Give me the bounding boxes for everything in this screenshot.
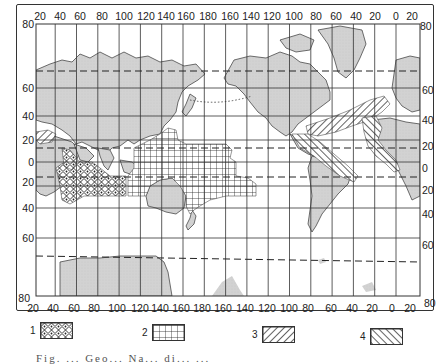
svg-text:60: 60	[68, 302, 80, 314]
legend-item-2: 2	[142, 324, 185, 341]
svg-text:60: 60	[22, 232, 34, 244]
svg-text:40: 40	[350, 10, 362, 22]
right-latitude-labels: 80 60 40 20 0 20 40 60 80	[420, 20, 436, 309]
svg-text:140: 140	[236, 302, 254, 314]
svg-text:60: 60	[22, 82, 34, 94]
svg-text:0: 0	[389, 302, 395, 314]
svg-text:160: 160	[214, 302, 232, 314]
svg-text:80: 80	[424, 297, 436, 309]
legend-item-4: 4	[360, 328, 403, 345]
legend-number: 1	[30, 325, 36, 336]
legend-number: 3	[252, 329, 258, 340]
svg-text:0: 0	[28, 156, 34, 168]
svg-text:60: 60	[325, 302, 337, 314]
cross-hatch-swatch-icon	[40, 322, 73, 339]
svg-text:80: 80	[88, 302, 100, 314]
svg-text:40: 40	[346, 302, 358, 314]
svg-text:100: 100	[280, 302, 298, 314]
svg-text:120: 120	[131, 302, 149, 314]
top-longitude-labels: 20 40 60 80 100 120 140 160 180 160 140 …	[34, 10, 418, 22]
left-latitude-labels: 80 60 40 20 0 20 40 60 80	[18, 18, 34, 304]
svg-text:20: 20	[22, 176, 34, 188]
svg-text:180: 180	[193, 302, 211, 314]
legend-number: 2	[142, 327, 148, 338]
legend-number: 4	[360, 331, 366, 342]
svg-text:80: 80	[302, 302, 314, 314]
svg-text:40: 40	[22, 202, 34, 214]
svg-text:100: 100	[115, 10, 133, 22]
svg-text:20: 20	[34, 10, 46, 22]
svg-text:80: 80	[96, 10, 108, 22]
svg-text:80: 80	[310, 10, 322, 22]
svg-text:100: 100	[285, 10, 303, 22]
svg-text:20: 20	[22, 134, 34, 146]
svg-text:80: 80	[22, 18, 34, 30]
svg-text:40: 40	[422, 114, 434, 126]
svg-text:40: 40	[47, 302, 59, 314]
forward-diagonal-swatch-icon	[262, 326, 295, 343]
bottom-longitude-labels: 20 40 60 80 100 120 140 160 180 160 140 …	[27, 302, 416, 314]
svg-text:140: 140	[157, 10, 175, 22]
svg-text:60: 60	[330, 10, 342, 22]
legend-item-1: 1	[30, 322, 73, 339]
svg-text:20: 20	[406, 10, 418, 22]
svg-text:60: 60	[74, 10, 86, 22]
map-legend: 1 2 3 4	[0, 322, 445, 346]
svg-text:20: 20	[369, 10, 381, 22]
svg-text:120: 120	[137, 10, 155, 22]
svg-text:60: 60	[422, 84, 434, 96]
svg-text:0: 0	[422, 162, 428, 174]
svg-text:20: 20	[422, 140, 434, 152]
svg-text:40: 40	[22, 110, 34, 122]
svg-text:0: 0	[393, 10, 399, 22]
svg-text:20: 20	[404, 302, 416, 314]
svg-text:140: 140	[242, 10, 260, 22]
svg-text:160: 160	[172, 302, 190, 314]
svg-text:160: 160	[177, 10, 195, 22]
figure-caption: Fig. ... Geo... Na... di... ...	[36, 352, 210, 364]
legend-item-3: 3	[252, 326, 295, 343]
svg-text:140: 140	[151, 302, 169, 314]
grid-swatch-icon	[152, 324, 185, 341]
svg-text:20: 20	[366, 302, 378, 314]
svg-text:40: 40	[54, 10, 66, 22]
svg-text:80: 80	[420, 20, 432, 32]
svg-text:180: 180	[199, 10, 217, 22]
svg-text:80: 80	[18, 292, 30, 304]
svg-text:60: 60	[422, 239, 434, 251]
svg-text:100: 100	[108, 302, 126, 314]
svg-text:120: 120	[263, 10, 281, 22]
svg-text:20: 20	[422, 184, 434, 196]
back-diagonal-swatch-icon	[370, 328, 403, 345]
svg-text:120: 120	[258, 302, 276, 314]
map-content	[36, 24, 420, 296]
svg-text:160: 160	[221, 10, 239, 22]
svg-text:40: 40	[422, 208, 434, 220]
